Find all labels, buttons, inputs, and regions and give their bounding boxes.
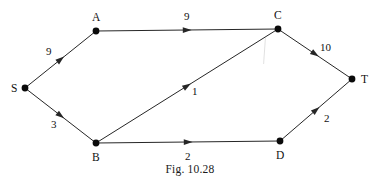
graph-node-c[interactable] (275, 26, 282, 33)
edge-weight-a-c: 9 (184, 11, 190, 22)
figure-caption: Fig. 10.28 (0, 163, 380, 175)
graph-node-a[interactable] (93, 28, 100, 35)
node-label-d: D (276, 150, 284, 162)
edge-weight-s-a: 9 (46, 46, 52, 57)
edge-weight-s-b: 3 (51, 119, 57, 130)
graph-node-d[interactable] (277, 138, 284, 145)
node-label-a: A (92, 12, 100, 24)
edge-arrowheads-group (55, 27, 321, 145)
arrowhead-b-c (182, 81, 193, 91)
node-label-c: C (274, 10, 282, 22)
edge-weight-b-c: 1 (192, 86, 198, 97)
graph-node-t[interactable] (349, 76, 356, 83)
node-label-s: S (11, 83, 17, 95)
node-label-b: B (92, 152, 100, 164)
edge-weight-d-t: 2 (324, 113, 330, 124)
graph-node-b[interactable] (93, 140, 100, 147)
edge-weight-b-d: 2 (185, 151, 191, 162)
edge-weight-c-t: 10 (320, 42, 331, 53)
figure-container: SACTBD 99321102 Fig. 10.28 (0, 0, 380, 186)
arrowhead-c-t (310, 49, 321, 59)
arrowhead-a-c (183, 27, 192, 33)
arrowhead-b-d (184, 139, 193, 145)
node-label-t: T (361, 74, 368, 86)
graph-node-s[interactable] (22, 85, 29, 92)
